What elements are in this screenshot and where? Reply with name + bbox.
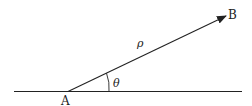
label-a: A bbox=[60, 94, 70, 106]
angle-arc bbox=[107, 73, 110, 91]
vector-arrow bbox=[68, 16, 226, 92]
label-theta: θ bbox=[113, 77, 120, 90]
label-rho: ρ bbox=[136, 37, 144, 50]
vector-diagram: B ρ θ A bbox=[0, 0, 252, 106]
label-b: B bbox=[228, 8, 237, 22]
